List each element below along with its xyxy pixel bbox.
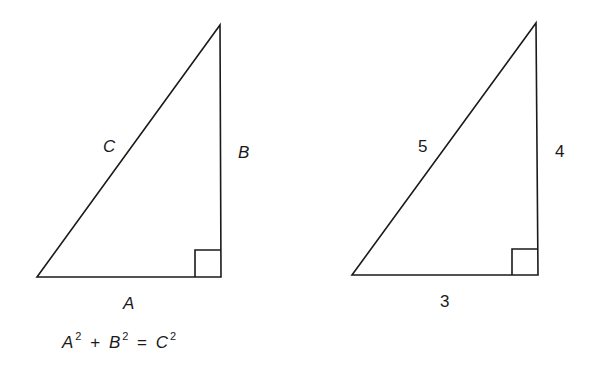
equation-term-c: C — [156, 333, 168, 352]
left-triangle-outline — [37, 25, 221, 277]
equation-exp-a: 2 — [75, 330, 81, 342]
right-triangle-outline — [352, 23, 538, 275]
equation-exp-c: 2 — [170, 330, 176, 342]
left-triangle — [37, 25, 221, 277]
right-base-label: 3 — [440, 293, 449, 310]
diagram-canvas — [0, 0, 590, 375]
pythagorean-equation: A2 + B2 = C2 — [62, 330, 176, 353]
right-triangle — [352, 23, 538, 275]
left-base-label: A — [123, 295, 134, 312]
left-vertical-label: B — [238, 144, 249, 161]
equation-term-a: A — [62, 333, 73, 352]
left-hypotenuse-label: C — [103, 138, 115, 155]
right-right-angle-marker — [512, 249, 538, 275]
equation-term-b: B — [109, 333, 120, 352]
equation-exp-b: 2 — [122, 330, 128, 342]
right-hypotenuse-label: 5 — [418, 138, 427, 155]
right-vertical-label: 4 — [555, 143, 564, 160]
left-right-angle-marker — [195, 250, 221, 277]
equation-plus: + — [90, 333, 100, 352]
equation-equals: = — [137, 333, 147, 352]
